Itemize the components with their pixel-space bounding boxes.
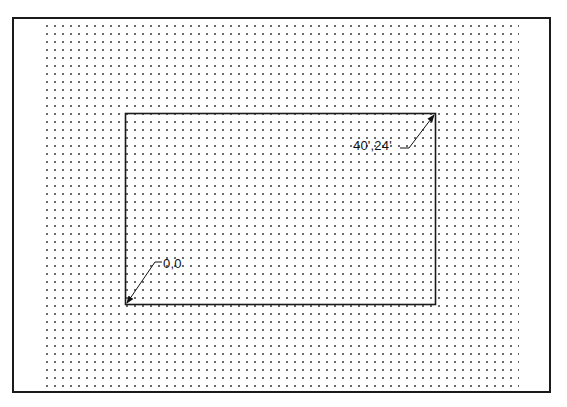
top-right-coordinate-label: 40',24': [353, 139, 392, 152]
top-right-leader: [400, 115, 434, 148]
bottom-left-leader: [127, 262, 162, 303]
origin-coordinate-label: 0,0: [163, 257, 182, 270]
drawing-canvas: [0, 0, 567, 407]
